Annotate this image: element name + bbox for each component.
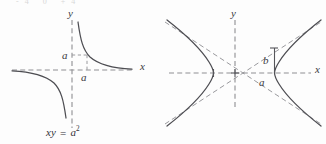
figure-rectangular-hyperbola: y x a a xy = a2 — [0, 0, 163, 144]
label-a: a — [259, 76, 265, 88]
standard-hyperbola-plot: y x b a — [163, 0, 326, 144]
figure-page: -4 0 +4 y x a a xy = a2 — [0, 0, 326, 144]
y-axis-label: y — [230, 7, 236, 19]
eq-left-equals: = — [59, 127, 68, 139]
curve-branch-first-quadrant — [78, 22, 132, 69]
curve-branch-third-quadrant — [12, 71, 66, 118]
equation-rectangular-hyperbola: xy = a2 — [46, 125, 80, 139]
rectangular-hyperbola-plot: y x a a — [0, 0, 163, 144]
x-axis-label: x — [139, 60, 145, 72]
x-tick-label-a: a — [81, 71, 87, 83]
eq-left-exponent: 2 — [76, 125, 80, 133]
eq-left-y: y — [51, 126, 56, 138]
figure-standard-hyperbola: y x b a x2 a2 − y2 b2 = 1 — [163, 0, 326, 144]
y-axis-label: y — [67, 7, 73, 19]
label-b: b — [263, 54, 269, 66]
x-axis-label: x — [314, 63, 320, 75]
y-tick-label-a: a — [62, 49, 68, 61]
